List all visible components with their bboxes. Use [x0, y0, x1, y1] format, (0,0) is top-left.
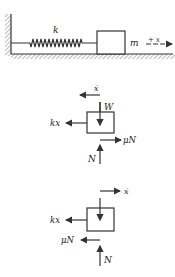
velocity-label: ẋ: [124, 187, 129, 196]
velocity-label: ẋ: [94, 84, 99, 93]
weight-label: W: [104, 102, 114, 112]
spring-force-label: kx: [50, 118, 60, 128]
mass-label: m: [130, 38, 139, 48]
normal-force-label: N: [103, 255, 113, 265]
friction-label: μN: [123, 135, 137, 145]
spring-mass-system: k m + x: [5, 14, 175, 59]
normal-force-label: N: [87, 154, 97, 164]
spring-force-label: kx: [50, 215, 60, 225]
friction-label: μN: [61, 235, 75, 245]
spring: [11, 39, 97, 47]
spring-mass-friction-diagram: k m + x ẋ W kx μN N ẋ kx μN N: [0, 0, 175, 277]
mass-block: [97, 31, 125, 54]
free-body-diagram-moving-left: ẋ W kx μN N: [50, 84, 137, 164]
positive-x-label: + x: [148, 36, 160, 44]
floor-hatch: [11, 54, 175, 59]
free-body-diagram-moving-right: ẋ kx μN N: [50, 187, 129, 266]
wall-hatch: [5, 14, 11, 56]
spring-constant-label: k: [53, 25, 58, 35]
